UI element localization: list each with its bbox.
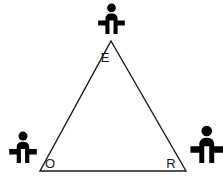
vertex-label-e: E	[101, 50, 110, 65]
person-head-icon	[107, 4, 116, 13]
vertex-label-r: R	[166, 156, 175, 171]
diagram-canvas: E O R	[0, 0, 223, 179]
vertex-label-o: O	[45, 156, 55, 171]
person-icon-bottom-right	[190, 126, 223, 163]
triangle-ORE	[40, 41, 186, 171]
person-head-icon	[19, 132, 28, 141]
person-head-icon	[201, 126, 212, 137]
person-body-icon	[9, 142, 37, 163]
person-body-icon	[98, 13, 125, 34]
diagram-svg: E O R	[0, 0, 223, 179]
person-body-icon	[190, 138, 223, 163]
person-icon-bottom-left	[9, 132, 37, 164]
person-icon-top	[98, 4, 125, 34]
